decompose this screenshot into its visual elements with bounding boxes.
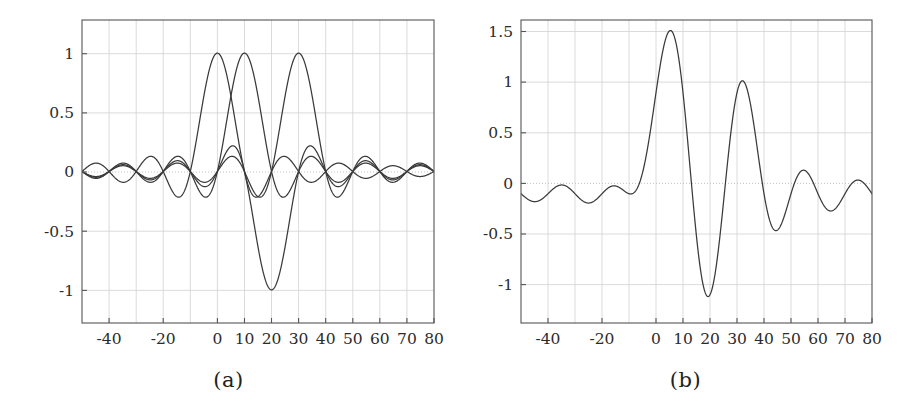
x-tick-label: -40 bbox=[97, 330, 122, 348]
x-tick-label: 20 bbox=[700, 330, 720, 348]
y-tick-label: -0.5 bbox=[483, 225, 513, 243]
figure-container: -40 -20 0 10 20 30 40 50 60 70 80 1 0.5 … bbox=[0, 0, 914, 402]
x-tick-labels-b: -40 -20 0 10 20 30 40 50 60 70 80 bbox=[536, 330, 882, 348]
x-tick-label: 10 bbox=[673, 330, 693, 348]
x-tick-label: 0 bbox=[212, 330, 222, 348]
x-tick-label: 80 bbox=[862, 330, 882, 348]
x-tick-label: 50 bbox=[343, 330, 363, 348]
x-tick-label: -40 bbox=[536, 330, 561, 348]
y-tick-label: -1 bbox=[59, 282, 74, 300]
x-tick-label: 20 bbox=[262, 330, 282, 348]
x-tick-label: -20 bbox=[590, 330, 615, 348]
panel-b-plot: -40 -20 0 10 20 30 40 50 60 70 80 1.5 1 … bbox=[457, 0, 914, 402]
y-tick-label: 1.5 bbox=[488, 23, 513, 41]
y-tick-label: 0 bbox=[503, 175, 513, 193]
panel-a: -40 -20 0 10 20 30 40 50 60 70 80 1 0.5 … bbox=[0, 0, 457, 402]
x-tick-label: 60 bbox=[808, 330, 828, 348]
panel-b-caption: (b) bbox=[457, 368, 914, 392]
y-tick-label: 1 bbox=[64, 45, 74, 63]
y-tick-label: 0 bbox=[64, 163, 74, 181]
y-tick-labels-a: 1 0.5 0 -0.5 -1 bbox=[44, 45, 74, 300]
x-tick-label: 40 bbox=[754, 330, 774, 348]
y-tick-label: -0.5 bbox=[44, 223, 74, 241]
x-tick-label: 80 bbox=[424, 330, 444, 348]
y-tick-label: 0.5 bbox=[49, 104, 74, 122]
x-tick-label: 30 bbox=[727, 330, 747, 348]
x-tick-label: 10 bbox=[235, 330, 255, 348]
panel-a-caption: (a) bbox=[0, 368, 457, 392]
plot-area-a bbox=[82, 20, 434, 323]
x-tick-label: 0 bbox=[651, 330, 661, 348]
panel-b: -40 -20 0 10 20 30 40 50 60 70 80 1.5 1 … bbox=[457, 0, 914, 402]
y-tick-labels-b: 1.5 1 0.5 0 -0.5 -1 bbox=[483, 23, 513, 294]
x-tick-label: 70 bbox=[397, 330, 417, 348]
y-tick-label: 0.5 bbox=[488, 124, 513, 142]
plot-area-b bbox=[521, 20, 872, 323]
y-tick-label: -1 bbox=[498, 276, 513, 294]
x-tick-label: 40 bbox=[316, 330, 336, 348]
x-tick-label: 60 bbox=[370, 330, 390, 348]
x-tick-label: -20 bbox=[151, 330, 176, 348]
y-tick-label: 1 bbox=[503, 73, 513, 91]
panel-a-plot: -40 -20 0 10 20 30 40 50 60 70 80 1 0.5 … bbox=[0, 0, 457, 402]
x-tick-label: 30 bbox=[289, 330, 309, 348]
x-tick-label: 50 bbox=[781, 330, 801, 348]
x-tick-label: 70 bbox=[835, 330, 855, 348]
x-tick-labels-a: -40 -20 0 10 20 30 40 50 60 70 80 bbox=[97, 330, 444, 348]
